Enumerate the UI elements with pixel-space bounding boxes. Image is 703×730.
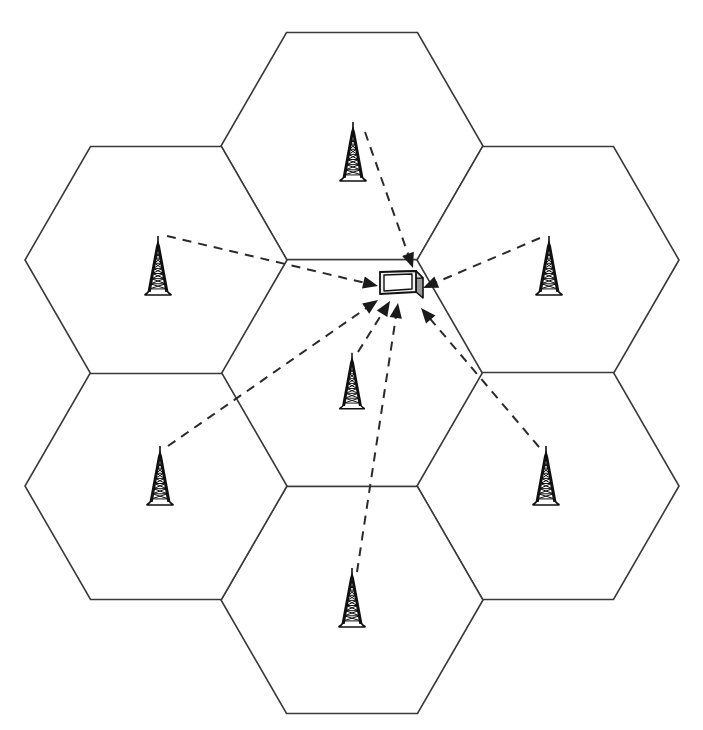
device-screen <box>384 274 412 291</box>
cellular-network-diagram: Center cellNorth cellNorth-east cellSout… <box>0 0 703 730</box>
diagram-canvas: Center cellNorth cellNorth-east cellSout… <box>0 0 703 730</box>
